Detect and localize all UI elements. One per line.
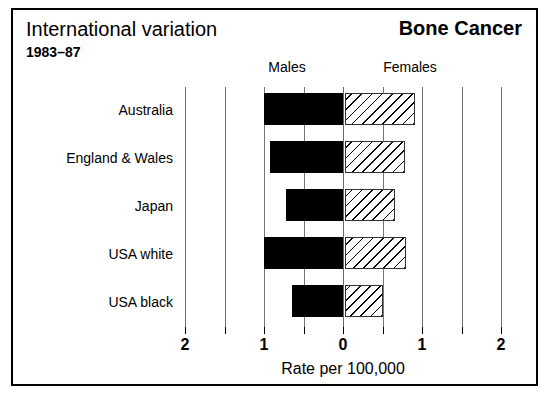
axis-tick-label: 2 — [497, 336, 506, 354]
axis-tick — [304, 327, 305, 334]
bar-male — [292, 285, 343, 317]
axis-tick — [185, 327, 186, 334]
chart-row — [183, 231, 501, 275]
axis-tick — [225, 327, 226, 334]
category-label: USA white — [108, 246, 173, 262]
chart-row — [183, 279, 501, 323]
bar-female — [345, 237, 406, 269]
topic-title: Bone Cancer — [399, 17, 522, 40]
axis-tick-label: 2 — [181, 336, 190, 354]
bar-male — [264, 237, 343, 269]
column-header-males: Males — [268, 59, 305, 75]
bar-male — [286, 189, 343, 221]
category-label: USA black — [108, 294, 173, 310]
category-label: Japan — [135, 198, 173, 214]
bar-female — [345, 189, 395, 221]
bar-male — [270, 141, 343, 173]
axis-tick — [264, 327, 265, 334]
bar-female — [345, 285, 383, 317]
chart-row — [183, 87, 501, 131]
x-axis-label: Rate per 100,000 — [281, 360, 405, 378]
bar-female — [345, 93, 415, 125]
axis-tick-label: 1 — [260, 336, 269, 354]
axis-tick — [422, 327, 423, 334]
page-title: International variation — [26, 18, 217, 41]
axis-tick-label: 0 — [339, 336, 348, 354]
axis-tick — [462, 327, 463, 334]
category-label-column: AustraliaEngland & WalesJapanUSA whiteUS… — [20, 87, 173, 327]
axis-tick — [383, 327, 384, 334]
period-subtitle: 1983–87 — [26, 44, 81, 60]
plot-area — [183, 87, 501, 327]
column-header-females: Females — [383, 59, 437, 75]
axis-tick-label: 1 — [418, 336, 427, 354]
chart-row — [183, 135, 501, 179]
axis-tick — [501, 327, 502, 334]
bone-cancer-bar-chart-figure: International variation 1983–87 Bone Can… — [0, 0, 549, 398]
category-label: Australia — [119, 102, 173, 118]
bar-male — [264, 93, 343, 125]
axis-tick — [343, 327, 344, 334]
category-label: England & Wales — [66, 150, 173, 166]
gridline — [501, 87, 502, 327]
chart-row — [183, 183, 501, 227]
bar-female — [345, 141, 405, 173]
